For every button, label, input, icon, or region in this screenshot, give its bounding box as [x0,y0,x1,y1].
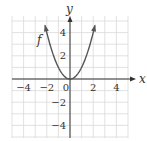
x-tick-label: 0 [63,82,69,93]
y-tick-label: −2 [51,97,66,108]
y-tick-label: −4 [51,120,66,131]
y-axis-arrow-icon [68,16,73,22]
x-tick-label: 2 [90,82,96,93]
graph-of-f: x y −4−2024 −4−224 f [0,0,147,141]
x-axis-label: x [139,72,146,86]
function-label: f [36,33,44,47]
x-tick-label: 4 [113,82,119,93]
y-axis-label: y [65,2,73,16]
x-tick-labels: −4−2024 [16,82,119,93]
y-tick-label: 4 [60,27,66,38]
x-axis-arrow-icon [130,77,136,82]
x-tick-label: −2 [39,82,54,93]
x-tick-label: −4 [16,82,31,93]
y-tick-label: 2 [60,50,66,61]
